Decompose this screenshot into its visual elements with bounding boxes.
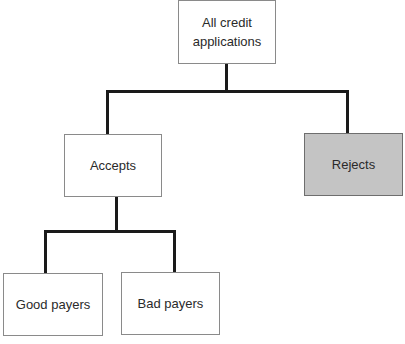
connector-to-accepts: [106, 90, 109, 135]
node-rejects: Rejects: [304, 133, 403, 196]
connector-accepts-stem: [115, 197, 118, 232]
node-label: All credit applications: [193, 13, 262, 51]
connector-level2-bar: [44, 230, 176, 233]
connector-to-good-payers: [44, 230, 47, 274]
connector-to-bad-payers: [173, 230, 176, 273]
node-label: Rejects: [332, 155, 375, 174]
connector-level1-bar: [106, 90, 349, 93]
node-label: Good payers: [16, 295, 90, 314]
node-good-payers: Good payers: [3, 273, 103, 336]
node-label: Bad payers: [138, 294, 204, 313]
connector-to-rejects: [346, 90, 349, 134]
node-label: Accepts: [90, 156, 136, 175]
node-bad-payers: Bad payers: [121, 272, 220, 335]
node-accepts: Accepts: [64, 134, 162, 197]
node-all-credit-applications: All credit applications: [178, 0, 276, 64]
connector-root-stem: [225, 64, 228, 93]
